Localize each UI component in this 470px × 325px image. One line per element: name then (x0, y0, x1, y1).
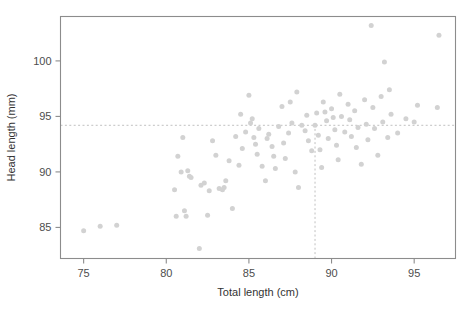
data-point (286, 131, 291, 136)
data-point (380, 119, 385, 124)
data-point (175, 154, 180, 159)
data-point (207, 188, 212, 193)
data-point (197, 246, 202, 251)
data-point (412, 119, 417, 124)
data-point (265, 136, 270, 141)
data-point (240, 146, 245, 151)
data-point (271, 154, 276, 159)
data-point (332, 127, 337, 132)
x-tick-label: 75 (78, 267, 90, 279)
y-tick-label: 100 (33, 55, 51, 67)
data-point (202, 181, 207, 186)
data-point (289, 121, 294, 126)
data-point (319, 165, 324, 170)
data-point (435, 105, 440, 110)
x-tick-label: 80 (160, 267, 172, 279)
data-point (349, 134, 354, 139)
data-point (222, 185, 227, 190)
data-point (355, 125, 360, 130)
y-axis-title: Head length (mm) (5, 93, 17, 181)
data-point (293, 169, 298, 174)
data-point (322, 109, 327, 114)
data-point (251, 135, 256, 140)
data-point (329, 106, 334, 111)
data-point (362, 97, 367, 102)
data-point (270, 144, 275, 149)
data-point (246, 93, 251, 98)
data-point (389, 112, 394, 117)
data-point (387, 87, 392, 92)
data-point (248, 121, 253, 126)
data-point (213, 153, 218, 158)
data-point (369, 23, 374, 28)
data-point (205, 213, 210, 218)
data-point (395, 131, 400, 136)
data-point (236, 163, 241, 168)
y-tick-label: 90 (39, 166, 51, 178)
data-point (336, 157, 341, 162)
data-point (375, 153, 380, 158)
data-point (403, 116, 408, 121)
data-point (334, 143, 339, 148)
data-point (174, 214, 179, 219)
data-point (243, 129, 248, 134)
data-point (317, 147, 322, 152)
data-point (266, 132, 271, 137)
data-point (255, 152, 260, 157)
data-point (342, 129, 347, 134)
data-point (98, 224, 103, 229)
y-tick-label: 95 (39, 110, 51, 122)
data-point (283, 156, 288, 161)
data-point (385, 135, 390, 140)
data-point (326, 136, 331, 141)
data-point (415, 103, 420, 108)
data-point (382, 60, 387, 65)
data-point (372, 126, 377, 131)
x-tick-label: 95 (408, 267, 420, 279)
data-point (347, 117, 352, 122)
data-point (436, 33, 441, 38)
data-point (303, 128, 308, 133)
x-axis: 7580859095 (78, 259, 421, 279)
data-point (313, 123, 318, 128)
data-point (273, 166, 278, 171)
data-point (210, 138, 215, 143)
data-point (81, 228, 86, 233)
reference-lines-group (61, 125, 456, 258)
data-point (189, 175, 194, 180)
data-point (263, 178, 268, 183)
data-point (114, 223, 119, 228)
data-points-group (81, 23, 441, 251)
data-point (379, 94, 384, 99)
scatter-plot-figure: 7580859095 859095100 Total length (cm) H… (0, 0, 470, 325)
data-point (354, 145, 359, 150)
plot-frame (61, 17, 456, 259)
data-point (180, 135, 185, 140)
data-point (184, 214, 189, 219)
data-point (324, 118, 329, 123)
x-axis-title: Total length (cm) (217, 286, 298, 298)
data-point (250, 116, 255, 121)
data-point (346, 102, 351, 107)
x-tick-label: 85 (243, 267, 255, 279)
data-point (370, 105, 375, 110)
data-point (304, 113, 309, 118)
data-point (339, 114, 344, 119)
data-point (299, 123, 304, 128)
data-point (179, 169, 184, 174)
plot-canvas: 7580859095 859095100 Total length (cm) H… (0, 0, 470, 325)
data-point (233, 134, 238, 139)
data-point (359, 162, 364, 167)
data-point (294, 89, 299, 94)
data-point (365, 137, 370, 142)
data-point (223, 178, 228, 183)
data-point (337, 92, 342, 97)
x-tick-label: 90 (325, 267, 337, 279)
data-point (279, 104, 284, 109)
data-point (331, 115, 336, 120)
data-point (253, 142, 258, 147)
data-point (182, 208, 187, 213)
data-point (309, 148, 314, 153)
data-point (364, 122, 369, 127)
data-point (296, 185, 301, 190)
